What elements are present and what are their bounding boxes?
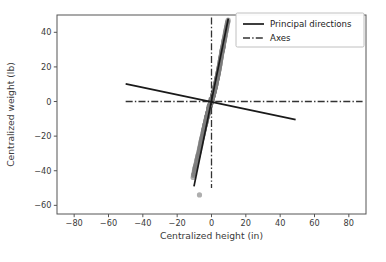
y-tick-label: −60: [34, 200, 51, 210]
x-tick-label: −40: [134, 218, 151, 228]
y-axis-label: Centralized weight (lb): [5, 62, 16, 167]
x-tick-label: 60: [309, 218, 319, 228]
y-tick-label: 0: [46, 97, 51, 107]
x-tick-label: 0: [209, 218, 214, 228]
figure-canvas: −80−60−40−2002040608040200−20−40−60Centr…: [0, 0, 386, 262]
y-tick-label: 20: [41, 62, 51, 72]
x-tick-label: 40: [275, 218, 285, 228]
x-tick-label: 20: [241, 218, 251, 228]
legend-label-1: Principal directions: [270, 19, 352, 29]
x-tick-label: 80: [344, 218, 354, 228]
scatter-point: [197, 192, 202, 197]
y-tick-label: −20: [34, 131, 51, 141]
x-tick-label: −60: [100, 218, 117, 228]
y-tick-label: 40: [41, 27, 51, 37]
x-axis-label: Centralized height (in): [160, 230, 263, 241]
legend-box: [236, 13, 364, 47]
x-tick-label: −20: [169, 218, 186, 228]
x-tick-label: −80: [66, 218, 83, 228]
y-tick-label: −40: [34, 166, 51, 176]
legend-label-2: Axes: [270, 33, 291, 43]
scatter-plot: −80−60−40−2002040608040200−20−40−60Centr…: [0, 0, 386, 262]
